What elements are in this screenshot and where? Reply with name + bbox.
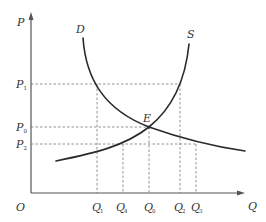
price-label-p2: P 2 [15,138,27,151]
origin-label: O [16,201,25,214]
labels: P Q O D S E P 1 P 0 P 2 Q 1 Q 4 Q 0 [15,16,257,214]
quantity-label-q2: Q 2 [174,201,186,214]
x-axis-label: Q [248,200,257,213]
supply-demand-diagram: P Q O D S E P 1 P 0 P 2 Q 1 Q 4 Q 0 [0,0,266,222]
demand-label: D [75,23,85,36]
svg-text:1: 1 [100,208,104,214]
svg-text:3: 3 [199,208,203,214]
quantity-label-q3: Q 3 [191,201,203,214]
quantity-label-q0: Q 0 [144,201,156,214]
supply-label: S [187,28,195,41]
quantity-label-q1: Q 1 [92,201,104,214]
price-label-p0: P 0 [15,121,28,134]
price-label-p1: P 1 [15,78,27,91]
quantity-label-q4: Q 4 [116,201,128,214]
svg-text:0: 0 [152,208,156,214]
svg-text:1: 1 [24,85,28,91]
svg-text:4: 4 [124,208,128,214]
equilibrium-label: E [142,112,151,125]
svg-text:2: 2 [24,145,28,151]
equilibrium-point [147,125,150,128]
y-axis-label: P [16,16,25,29]
x-axis-arrow-icon [237,191,245,196]
svg-text:0: 0 [24,128,28,134]
svg-text:2: 2 [182,208,186,214]
y-axis-arrow-icon [29,12,34,20]
axes [29,12,246,196]
supply-curve [56,44,189,161]
demand-curve [83,38,245,151]
